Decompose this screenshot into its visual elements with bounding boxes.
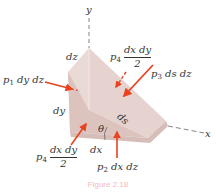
p3-label: p3 ds dz [151,69,191,81]
p4-front-denominator: 2 [50,159,77,170]
p4-front-numerator: dx dy [50,145,77,156]
p4-back-denominator: 2 [124,59,151,70]
dy-label: dy [53,106,65,116]
theta-label: θ [98,124,104,134]
p4-front-subscript: 4 [42,156,46,164]
x-axis-label: x [205,129,211,139]
x-axis [168,126,204,133]
p2-label: p2 dx dz [97,162,138,174]
p2-terms: dx dz [108,161,138,172]
p4-back-label: p4 dx dy 2 [110,45,151,69]
p4-back-subscript: 4 [116,56,120,64]
p4-front-label: p4 dx dy 2 [36,145,77,169]
dz-label: dz [66,52,78,62]
p1-arrow [45,82,72,89]
p1-terms: dy dz [14,74,44,85]
p3-arrow [124,65,153,96]
p4-back-numerator: dx dy [124,45,151,56]
dx-label: dx [90,145,102,155]
figure-caption: Figure 2.18 [0,180,216,189]
p3-terms: ds dz [162,68,192,79]
y-axis-label: y [86,5,92,15]
p1-label: p1 dy dz [3,75,44,87]
